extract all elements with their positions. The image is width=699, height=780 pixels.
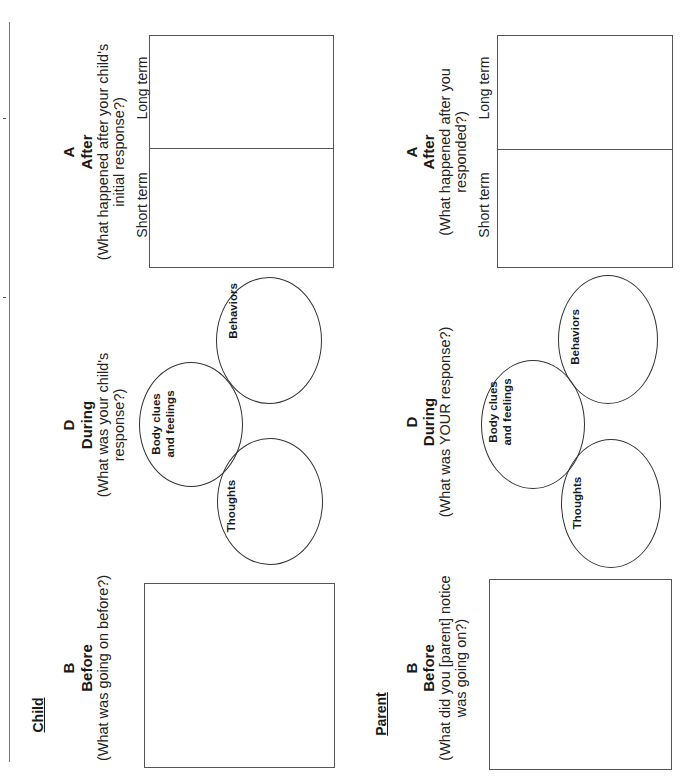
after-question-line2: responded?) (454, 111, 469, 192)
long-term-label: Long term (135, 56, 149, 119)
short-term-label: Short term (477, 172, 491, 237)
child-after-short-term-cell[interactable] (150, 149, 333, 267)
page-header-rule (9, 22, 10, 762)
before-letter: B (61, 663, 76, 674)
before-question-line1: (What did you [parent] notice (438, 575, 453, 760)
after-letter: A (404, 147, 419, 158)
header-fragment-mark (3, 297, 6, 298)
behaviors-label: Behaviors (569, 309, 582, 365)
after-letter: A (61, 147, 76, 158)
before-heading: Before (421, 644, 436, 692)
during-letter: D (404, 417, 419, 428)
during-question-line2: response?) (112, 389, 127, 462)
section-label-parent: Parent (374, 692, 388, 736)
before-heading: Before (79, 644, 94, 692)
body-clues-label-line2: and feelings (501, 378, 514, 445)
during-letter: D (61, 420, 76, 431)
parent-after-long-term-cell[interactable] (498, 36, 672, 148)
during-heading: During (421, 398, 436, 446)
parent-before-box[interactable] (489, 579, 672, 770)
during-question: (What was YOUR response?) (438, 327, 453, 518)
during-heading: During (79, 401, 94, 449)
before-question: (What was going on before?) (96, 575, 111, 761)
behaviors-label: Behaviors (227, 283, 240, 339)
parent-after-short-term-cell[interactable] (498, 150, 672, 267)
before-question-line2: was going on?) (454, 619, 469, 717)
after-heading: After (79, 134, 94, 169)
header-fragment-mark (3, 118, 6, 119)
after-heading: After (421, 134, 436, 169)
short-term-label: Short term (135, 172, 149, 237)
body-clues-label-line2: and feelings (164, 390, 177, 457)
thoughts-label: Thoughts (225, 480, 238, 532)
body-clues-label-line1: Body clues (150, 393, 163, 454)
after-question-line1: (What happened after your child's (96, 44, 111, 260)
after-question-line2: initial response?) (112, 97, 127, 207)
before-letter: B (404, 663, 419, 674)
body-clues-label-line1: Body clues (487, 381, 500, 442)
section-label-child: Child (31, 698, 45, 733)
child-before-box[interactable] (144, 583, 335, 768)
child-after-long-term-cell[interactable] (150, 36, 333, 147)
after-question-line1: (What happened after you (438, 68, 453, 236)
thoughts-label: Thoughts (571, 477, 584, 529)
long-term-label: Long term (477, 56, 491, 119)
during-question-line1: (What was your child's (96, 353, 111, 498)
